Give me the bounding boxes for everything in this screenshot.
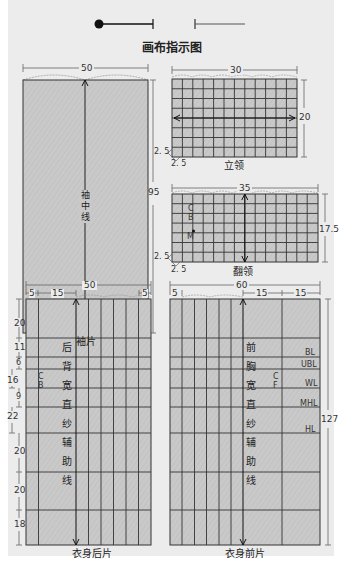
char: 直 — [245, 395, 257, 414]
back-side-seg-8: 20 — [14, 486, 25, 495]
sleeve-caption: 袖片 — [76, 337, 96, 347]
front-body-width-label: 60 — [234, 281, 249, 290]
pattern-drawing — [0, 0, 344, 563]
back-body-top-seg-1: 5 — [29, 289, 35, 298]
back-center-line-label: 后 背 宽 直 纱 辅 助 线 — [61, 338, 73, 490]
front-body-top-seg-1: 5 — [172, 289, 178, 298]
char: 纱 — [245, 414, 257, 433]
char: 助 — [61, 452, 73, 471]
char: 宽 — [61, 376, 73, 395]
front-body-top-seg-3: 15 — [294, 289, 307, 298]
char: 线 — [61, 471, 73, 490]
char: 纱 — [61, 414, 73, 433]
char: 袖 — [79, 190, 91, 201]
back-side-seg-2: 11 — [14, 343, 25, 352]
turn-collar-height-label: 17.5 — [319, 225, 339, 234]
back-body-cb-marker: C B — [38, 372, 44, 390]
stand-collar-margin-left: 2. 5 — [154, 148, 169, 156]
char: 前 — [245, 338, 257, 357]
back-side-seg-5: 9 — [16, 393, 21, 401]
back-side-seg-7: 20 — [14, 447, 25, 456]
needle-pin-icon — [95, 19, 154, 29]
char: 后 — [61, 338, 73, 357]
turn-collar-margin-bottom: 2. 5 — [171, 266, 186, 274]
stand-collar-width-label: 30 — [228, 66, 243, 75]
turn-collar-marker-b: B — [188, 214, 194, 222]
front-body-caption: 衣身前片 — [225, 549, 265, 559]
back-side-seg-3: 6 — [16, 359, 21, 367]
turn-collar-width-label: 35 — [237, 184, 252, 193]
back-body-piece — [9, 281, 151, 545]
hip-line-label: HL — [305, 426, 315, 434]
sleeve-height-label: 95 — [148, 188, 159, 197]
char: C — [38, 372, 44, 381]
stand-collar-height-label: 20 — [299, 113, 310, 122]
sleeve-center-line-label: 袖 中 线 — [79, 190, 91, 223]
waist-line-label: WL — [305, 380, 317, 388]
back-side-seg-6: 22 — [7, 412, 18, 421]
char: 线 — [245, 471, 257, 490]
char: B — [38, 381, 44, 390]
char: 背 — [61, 357, 73, 376]
stand-collar-caption: 立领 — [224, 161, 244, 171]
char: 胸 — [245, 357, 257, 376]
back-body-caption: 衣身后片 — [72, 549, 112, 559]
char: 助 — [245, 452, 257, 471]
turn-collar-caption: 翻领 — [233, 267, 253, 277]
char: 辅 — [61, 433, 73, 452]
front-body-height-label: 127 — [321, 415, 338, 424]
back-side-seg-4: 16 — [7, 376, 18, 385]
under-bust-line-label: UBL — [301, 361, 317, 369]
middle-hip-line-label: MHL — [300, 400, 317, 408]
turn-collar-marker-m: M — [187, 233, 194, 241]
turn-collar-piece — [168, 184, 328, 266]
char: 宽 — [245, 376, 257, 395]
back-side-seg-9: 18 — [14, 520, 25, 529]
thread-line-icon — [195, 19, 245, 29]
back-side-seg-1: 20 — [14, 319, 25, 328]
turn-collar-marker-c: C — [188, 205, 194, 213]
char: 线 — [79, 212, 91, 223]
sleeve-width-label: 50 — [79, 64, 94, 73]
char: 直 — [61, 395, 73, 414]
back-body-width-label: 50 — [82, 281, 97, 290]
page-title: 画布指示图 — [142, 38, 202, 55]
front-center-line-label: 前 胸 宽 直 纱 辅 助 线 — [245, 338, 257, 490]
char: C — [273, 372, 279, 381]
back-body-top-seg-3: 5 — [142, 289, 148, 298]
turn-collar-margin-left: 2. 5 — [154, 253, 169, 261]
stand-collar-margin-bottom: 2. 5 — [171, 160, 186, 168]
char: F — [273, 381, 279, 390]
front-body-top-seg-2: 15 — [255, 289, 268, 298]
char: 中 — [79, 201, 91, 212]
bust-line-label: BL — [305, 349, 315, 357]
char: 辅 — [245, 433, 257, 452]
back-body-top-seg-2: 15 — [51, 289, 64, 298]
front-body-cf-marker: C F — [273, 372, 279, 390]
stand-collar-piece — [168, 66, 307, 161]
